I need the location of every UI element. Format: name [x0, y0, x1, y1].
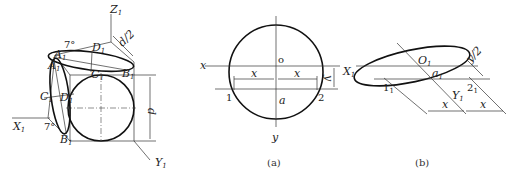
- panel-a-point-1-label: 1: [226, 92, 232, 103]
- angle-7-bottom-label: 7°: [44, 121, 55, 132]
- panel-a-x-label: x: [200, 59, 207, 72]
- panel-b-dim-x-left-label: x: [442, 98, 449, 111]
- panel-b-caption: (b): [415, 157, 429, 168]
- c1-top-label: C1: [91, 68, 104, 82]
- d-label: d: [145, 108, 158, 115]
- isometric-cube-diagram: Z1 d/2 D1 C1 B1 A1 A1 7° C1 D1 7° B1 X1 …: [12, 3, 167, 170]
- panel-a-y-label: y: [271, 131, 279, 144]
- panel-b-y1-label: Y1: [452, 89, 464, 103]
- panel-b-x1-label: X1: [342, 65, 355, 79]
- b1-top-label: B1: [121, 67, 135, 81]
- x1-label: X1: [12, 120, 25, 134]
- panel-a-point-a-label: a: [279, 94, 286, 107]
- z1-label: Z1: [109, 3, 122, 17]
- panel-a-dim-x-left-label: x: [251, 67, 258, 80]
- b1-bottom-label: B1: [59, 133, 73, 147]
- panel-a-point-2-label: 2: [318, 92, 324, 103]
- panel-a-caption: (a): [267, 157, 281, 168]
- y1-axis-line: [134, 141, 150, 160]
- panel-a-origin-label: o: [278, 54, 284, 65]
- panel-b-dim-y-half-label: y/2: [463, 44, 485, 66]
- y1-label: Y1: [155, 156, 167, 170]
- angle-7-top-label: 7°: [64, 39, 75, 50]
- panel-b: X1 O1 a1 11 21 Y1 y/2 x x (b): [342, 38, 506, 168]
- panel-b-slant-right: [469, 77, 506, 114]
- panel-b-dim-x-right-label: x: [480, 98, 487, 111]
- d-half-label: d/2: [116, 27, 138, 49]
- panel-a-dim-y-label: y: [322, 74, 335, 82]
- a1-label-lower: A1: [47, 59, 60, 73]
- panel-b-point-a-label: a1: [432, 67, 443, 81]
- panel-a: x o x x y 1 2 a y (a): [200, 16, 340, 168]
- panel-b-origin-label: O1: [418, 54, 432, 68]
- panel-b-point-1-label: 11: [383, 82, 394, 95]
- d1-top-label: D1: [91, 41, 105, 55]
- figure-canvas: Z1 d/2 D1 C1 B1 A1 A1 7° C1 D1 7° B1 X1 …: [0, 0, 507, 177]
- panel-a-dim-x-right-label: x: [294, 67, 301, 80]
